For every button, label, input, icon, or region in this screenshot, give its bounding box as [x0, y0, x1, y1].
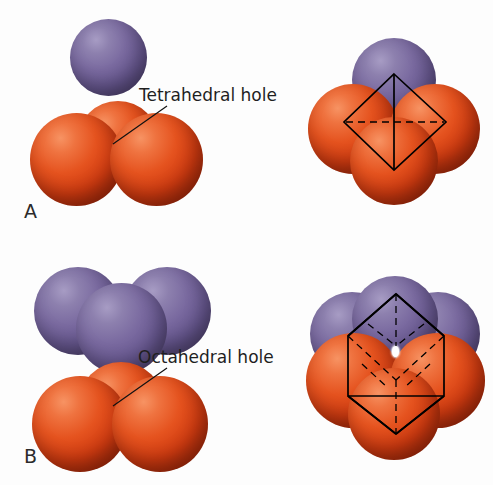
- tetrahedral-hole-label: Tetrahedral hole: [139, 85, 277, 105]
- panel-octahedral: Octahedral hole: [0, 240, 493, 485]
- tetrahedron-wireframe: [340, 60, 460, 190]
- octahedral-hole-label: Octahedral hole: [138, 347, 274, 367]
- octahedral-hole-leader-line: [105, 362, 175, 412]
- octahedron-wireframe: [340, 284, 470, 444]
- tetrahedral-hole-leader-line: [105, 100, 175, 150]
- purple-sphere: [70, 19, 147, 96]
- panel-label-b: B: [24, 445, 38, 467]
- figure-canvas: Tetrahedral hole A: [0, 0, 493, 485]
- panel-label-a: A: [24, 200, 38, 222]
- panel-tetrahedral: Tetrahedral hole A: [0, 0, 493, 240]
